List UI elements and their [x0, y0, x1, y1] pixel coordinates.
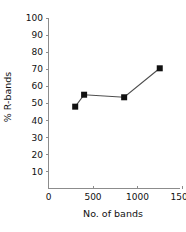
x-tick-label: 0 — [46, 192, 52, 202]
x-tick-label: 1500 — [171, 192, 186, 202]
chart-container: % R-bands No. of bands 10203040506070809… — [0, 0, 186, 232]
data-point-marker — [72, 104, 78, 110]
plot-area: 102030405060708090100 050010001500 — [0, 0, 186, 232]
y-tick-label: 70 — [32, 64, 44, 74]
y-tick-label: 40 — [32, 116, 44, 126]
y-tick-label: 100 — [26, 13, 43, 23]
x-tick-label: 1000 — [126, 192, 149, 202]
x-axis-ticks: 050010001500 — [46, 186, 186, 203]
series-line — [75, 68, 160, 106]
y-tick-label: 20 — [32, 150, 44, 160]
y-tick-label: 10 — [32, 167, 44, 177]
y-tick-label: 90 — [32, 30, 44, 40]
x-tick-label: 500 — [84, 192, 101, 202]
data-point-marker — [121, 94, 127, 100]
y-axis-ticks: 102030405060708090100 — [26, 13, 49, 176]
y-tick-label: 50 — [32, 98, 44, 108]
y-tick-label: 60 — [32, 81, 44, 91]
data-point-marker — [157, 65, 163, 71]
data-point-marker — [81, 92, 87, 98]
y-tick-label: 30 — [32, 133, 44, 143]
data-series-layer — [72, 65, 163, 109]
y-tick-label: 80 — [32, 47, 44, 57]
